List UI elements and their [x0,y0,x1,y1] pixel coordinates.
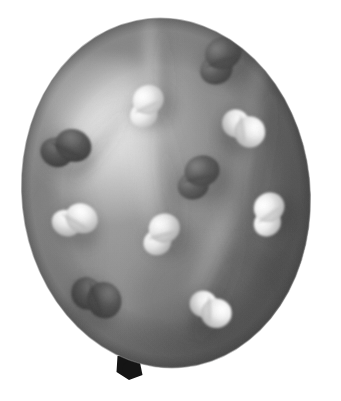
balloon-photograph [0,0,341,401]
image-canvas: A grayscale photograph of an inflated ro… [0,0,341,401]
